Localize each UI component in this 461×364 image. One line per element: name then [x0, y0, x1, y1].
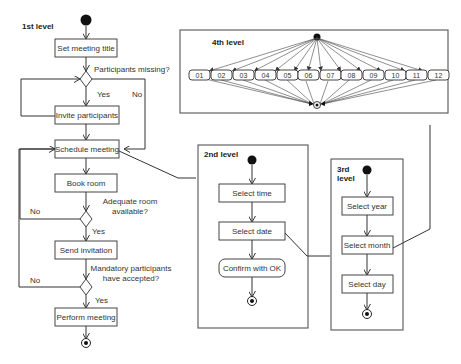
- month-01[interactable]: 01: [189, 70, 210, 80]
- month-06[interactable]: 06: [298, 70, 319, 80]
- initial-node: [81, 15, 92, 26]
- activity-confirm-with-ok[interactable]: Confirm with OK: [219, 259, 285, 277]
- level3-diagram: 3rd level Select year Select month Selec…: [331, 159, 403, 330]
- svg-text:Yes: Yes: [92, 227, 105, 236]
- month-12[interactable]: 12: [428, 70, 449, 80]
- month-03[interactable]: 03: [233, 70, 254, 80]
- svg-text:level: level: [337, 174, 355, 183]
- month-02[interactable]: 02: [211, 70, 232, 80]
- svg-text:Perform meeting: Perform meeting: [56, 313, 115, 322]
- activity-select-time[interactable]: Select time: [219, 184, 285, 202]
- svg-text:Invite participants: Invite participants: [56, 111, 118, 120]
- activity-select-month[interactable]: Select month: [342, 236, 393, 254]
- svg-text:08: 08: [348, 72, 356, 79]
- svg-text:Confirm with OK: Confirm with OK: [223, 264, 282, 273]
- activity-book-room[interactable]: Book room: [55, 174, 117, 192]
- svg-text:Select time: Select time: [232, 189, 272, 198]
- activity-perform-meeting[interactable]: Perform meeting: [55, 308, 117, 326]
- svg-text:Set meeting title: Set meeting title: [57, 44, 115, 53]
- activity-send-invitation[interactable]: Send invitation: [55, 241, 117, 259]
- svg-text:Select date: Select date: [232, 227, 273, 236]
- svg-text:Yes: Yes: [95, 296, 108, 305]
- level2-title: 2nd level: [204, 150, 238, 159]
- level2-diagram: 2nd level Select time Select date Confir…: [198, 145, 308, 328]
- level1-title: 1st level: [22, 22, 54, 31]
- level4-title: 4th level: [212, 38, 244, 47]
- activity-select-year[interactable]: Select year: [342, 197, 393, 215]
- svg-text:Book room: Book room: [67, 179, 106, 188]
- svg-text:Yes: Yes: [97, 90, 110, 99]
- svg-text:available?: available?: [112, 207, 149, 216]
- final-node: [82, 339, 91, 348]
- svg-text:Select year: Select year: [347, 202, 387, 211]
- svg-text:Send invitation: Send invitation: [60, 246, 112, 255]
- svg-text:No: No: [132, 90, 143, 99]
- svg-text:Schedule meeting: Schedule meeting: [55, 145, 119, 154]
- final-node: [314, 102, 321, 109]
- svg-text:04: 04: [262, 72, 270, 79]
- month-11[interactable]: 11: [406, 70, 427, 80]
- activity-select-day[interactable]: Select day: [342, 275, 393, 293]
- svg-text:07: 07: [327, 72, 335, 79]
- svg-text:have accepted?: have accepted?: [103, 274, 160, 283]
- month-05[interactable]: 05: [277, 70, 298, 80]
- svg-text:03: 03: [240, 72, 248, 79]
- level4-diagram: 4th level: [180, 30, 449, 113]
- svg-text:No: No: [30, 276, 41, 285]
- month-09[interactable]: 09: [363, 70, 384, 80]
- month-07[interactable]: 07: [320, 70, 341, 80]
- svg-text:Select day: Select day: [348, 280, 385, 289]
- decision-mandatory-accepted: [80, 279, 92, 295]
- svg-text:10: 10: [392, 72, 400, 79]
- svg-text:Adequate room: Adequate room: [103, 197, 158, 206]
- svg-text:01: 01: [196, 72, 204, 79]
- decision-participants-missing: [80, 71, 92, 87]
- svg-text:Select month: Select month: [344, 241, 391, 250]
- svg-text:09: 09: [370, 72, 378, 79]
- activity-invite-participants[interactable]: Invite participants: [55, 106, 119, 124]
- svg-text:06: 06: [305, 72, 313, 79]
- svg-text:Participants missing?: Participants missing?: [94, 65, 170, 74]
- svg-text:Mandatory participants: Mandatory participants: [91, 264, 172, 273]
- month-04[interactable]: 04: [255, 70, 276, 80]
- final-node: [248, 297, 257, 306]
- svg-text:11: 11: [413, 72, 420, 79]
- svg-text:3rd: 3rd: [337, 165, 350, 174]
- activity-schedule-meeting[interactable]: Schedule meeting: [55, 140, 119, 158]
- month-nodes: 01 02 03 04 05 06 07 08 09 10 11 12: [189, 70, 449, 80]
- final-node: [363, 310, 372, 319]
- svg-text:05: 05: [284, 72, 292, 79]
- decision-adequate-room: [80, 211, 92, 227]
- figure-caption-cutoff: [92, 353, 392, 364]
- svg-text:12: 12: [435, 72, 443, 79]
- refinement-connector-1: [119, 151, 196, 178]
- month-10[interactable]: 10: [385, 70, 406, 80]
- month-08[interactable]: 08: [341, 70, 362, 80]
- refinement-connector-3: [393, 125, 430, 248]
- svg-text:No: No: [30, 207, 41, 216]
- activity-set-meeting-title[interactable]: Set meeting title: [55, 39, 117, 57]
- svg-text:02: 02: [218, 72, 226, 79]
- activity-select-date[interactable]: Select date: [219, 222, 285, 240]
- level1-diagram: 1st level Set meeting title Participants…: [19, 15, 171, 348]
